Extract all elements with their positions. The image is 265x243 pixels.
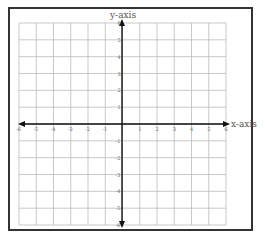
y-tick-label: 2 — [118, 87, 121, 93]
x-tick-label: -4 — [51, 126, 56, 132]
x-tick-label: -2 — [85, 126, 90, 132]
y-tick-label: -5 — [116, 205, 121, 211]
y-axis-label: y-axis — [109, 10, 136, 20]
y-tick-label: -6 — [116, 222, 121, 228]
x-tick-label: 3 — [173, 126, 176, 132]
y-tick-label: 6 — [118, 20, 121, 26]
y-tick-label: 4 — [118, 54, 121, 60]
axes — [18, 19, 230, 228]
x-tick-label: -3 — [68, 126, 73, 132]
x-tick-label: 1 — [138, 126, 141, 132]
y-tick-label: 3 — [118, 71, 121, 77]
y-tick-label: -4 — [116, 188, 121, 194]
x-axis-label: x-axis — [231, 119, 257, 129]
x-tick-label: 4 — [190, 126, 193, 132]
x-tick-label: 5 — [207, 126, 210, 132]
x-tick-label: -1 — [102, 126, 107, 132]
y-tick-label: -1 — [116, 138, 121, 144]
x-tick-label: -5 — [33, 126, 38, 132]
y-tick-label: -2 — [116, 155, 121, 161]
x-tick-label: 2 — [156, 126, 159, 132]
x-tick-label: 6 — [225, 126, 228, 132]
y-tick-label: 1 — [118, 104, 121, 110]
y-tick-label: 5 — [118, 37, 121, 43]
y-tick-label: -3 — [116, 172, 121, 178]
coordinate-grid: -6-5-4-3-2-1123456654321-1-2-3-4-5-6 x-a… — [0, 0, 265, 243]
x-tick-label: -6 — [16, 126, 21, 132]
